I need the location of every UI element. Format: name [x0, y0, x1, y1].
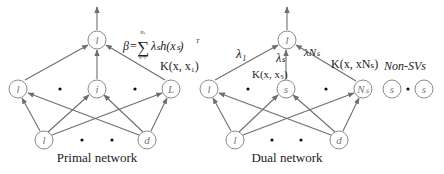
svg-text:β: β	[122, 39, 129, 53]
svg-text:Nₛ: Nₛ	[139, 30, 145, 35]
ellipsis-dot	[324, 87, 327, 90]
svg-text:d: d	[144, 134, 150, 146]
non-svs-label: Non-SVs	[383, 59, 426, 73]
dual-network: l l s Nₛ l d λ₁ λₛ λNₛ K(x, x₁)	[160, 7, 433, 165]
primal-hidden-node-1: l	[9, 80, 27, 98]
svg-text:d: d	[336, 134, 342, 146]
ellipsis-dot	[406, 87, 409, 90]
primal-edge-ind-hL	[151, 98, 167, 131]
kernel-kNs: K(x, xNₛ)	[331, 57, 378, 71]
non-sv-node-1: s	[383, 80, 401, 98]
ellipsis-dot	[270, 138, 273, 141]
kernel-k1: K(x, x₁)	[160, 59, 199, 73]
ellipsis-dot	[299, 138, 302, 141]
primal-hidden-node-i: i	[88, 80, 106, 98]
svg-text:Nₛ: Nₛ	[356, 83, 369, 95]
dual-output-node: l	[278, 31, 296, 49]
svg-text:l: l	[95, 34, 98, 46]
non-sv-node-2: s	[415, 80, 433, 98]
ellipsis-dot	[80, 138, 83, 141]
primal-edge-h1-out	[25, 45, 88, 80]
ellipsis-dot	[246, 87, 249, 90]
ellipsis-dot	[110, 138, 113, 141]
svg-text:l: l	[285, 34, 288, 46]
dual-edge-ind-hN	[343, 98, 359, 131]
weight-lambda-s: λₛ	[275, 51, 286, 65]
ellipsis-dot	[133, 87, 136, 90]
dual-edge-in1-h1	[213, 98, 231, 131]
primal-dual-network-diagram: l l i L l d β = ∑ N	[0, 0, 444, 174]
svg-text:L: L	[167, 83, 174, 95]
dual-hidden-node-s: s	[277, 80, 295, 98]
primal-network: l l i L l d β = ∑ N	[9, 7, 200, 165]
dual-input-node-1: l	[226, 131, 244, 149]
svg-text:l: l	[16, 83, 19, 95]
svg-text:s=1: s=1	[139, 55, 147, 60]
svg-text:=: =	[130, 39, 137, 53]
svg-text:s: s	[390, 83, 394, 95]
weight-lambda-Ns: λNₛ	[303, 46, 321, 58]
primal-hidden-node-L: L	[162, 80, 180, 98]
svg-text:l: l	[233, 134, 236, 146]
dual-hidden-node-Ns: Nₛ	[354, 80, 372, 98]
primal-output-node: l	[88, 31, 106, 49]
svg-text:s: s	[284, 83, 288, 95]
primal-caption: Primal network	[57, 150, 138, 165]
primal-input-node-d: d	[138, 131, 156, 149]
svg-text:l: l	[207, 83, 210, 95]
ellipsis-dot	[58, 87, 61, 90]
svg-text:l: l	[42, 134, 45, 146]
weight-lambda-1: λ₁	[235, 46, 246, 61]
dual-hidden-node-1: l	[200, 80, 218, 98]
dual-input-node-d: d	[330, 131, 348, 149]
svg-text:T: T	[196, 38, 200, 44]
kernel-ks: K(x, xₛ)	[252, 68, 288, 81]
svg-text:i: i	[95, 83, 98, 95]
beta-formula: β = ∑ Nₛ s=1 λₛh(xₛ) T	[122, 30, 200, 60]
primal-input-node-1: l	[35, 131, 53, 149]
dual-caption: Dual network	[251, 150, 323, 165]
svg-text:s: s	[422, 83, 426, 95]
primal-edge-in1-h1	[22, 98, 40, 131]
svg-text:λₛh(xₛ): λₛh(xₛ)	[150, 39, 184, 53]
